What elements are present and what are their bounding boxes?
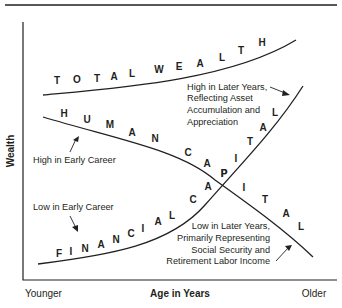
- svg-text:A: A: [282, 208, 289, 219]
- svg-text:T: T: [247, 136, 253, 147]
- svg-text:E: E: [176, 61, 183, 72]
- arrowhead-icon: [72, 225, 78, 232]
- svg-text:I: I: [243, 182, 246, 193]
- arrow-icon: [70, 139, 76, 152]
- svg-text:N: N: [151, 133, 158, 144]
- svg-text:F: F: [56, 248, 62, 259]
- annotation-financial-later: High in Later Years, Reflecting Asset Ac…: [187, 82, 290, 127]
- svg-text:L: L: [219, 52, 225, 63]
- svg-text:H: H: [258, 37, 265, 48]
- annotation-financial-early: Low in Early Career: [33, 202, 114, 232]
- svg-text:A: A: [97, 239, 104, 250]
- arrowhead-icon: [282, 90, 290, 96]
- svg-text:Low in Early Career: Low in Early Career: [33, 202, 114, 212]
- svg-text:T: T: [54, 75, 60, 86]
- svg-text:L: L: [169, 210, 175, 221]
- svg-text:Low in Later Years,: Low in Later Years,: [192, 221, 270, 231]
- svg-text:I: I: [235, 153, 238, 164]
- svg-text:A: A: [196, 58, 203, 69]
- svg-text:High in Early Career: High in Early Career: [33, 155, 116, 165]
- svg-text:T: T: [94, 73, 100, 84]
- svg-text:N: N: [81, 243, 88, 254]
- svg-text:A: A: [110, 71, 117, 82]
- svg-text:O: O: [73, 74, 81, 85]
- svg-text:W: W: [154, 64, 164, 75]
- svg-text:A: A: [204, 181, 211, 192]
- x-axis-label: Age in Years: [150, 288, 210, 299]
- svg-text:P: P: [221, 168, 228, 179]
- x-axis-end-label: Older: [302, 288, 327, 299]
- svg-text:I: I: [70, 246, 73, 257]
- y-axis-label: Wealth: [5, 135, 16, 168]
- total-wealth-label: T O T A L W E A L T H: [54, 37, 266, 86]
- svg-text:L: L: [272, 107, 278, 118]
- arrowhead-icon: [73, 136, 79, 142]
- svg-text:Reflecting Asset: Reflecting Asset: [187, 93, 253, 103]
- svg-text:A: A: [128, 127, 135, 138]
- svg-text:Accumulation and: Accumulation and: [187, 105, 260, 115]
- arrow-icon: [276, 248, 288, 261]
- annotation-human-later: Low in Later Years, Primarily Representi…: [166, 221, 292, 266]
- svg-text:I: I: [142, 223, 145, 234]
- x-axis-start-label: Younger: [25, 288, 63, 299]
- svg-text:H: H: [60, 108, 67, 119]
- svg-text:U: U: [83, 114, 90, 125]
- svg-text:Appreciation: Appreciation: [187, 117, 238, 127]
- svg-text:L: L: [129, 68, 135, 79]
- annotation-human-early: High in Early Career: [33, 136, 116, 165]
- svg-text:M: M: [106, 119, 114, 130]
- svg-text:N: N: [112, 234, 119, 245]
- svg-text:A: A: [259, 122, 266, 133]
- svg-text:T: T: [238, 45, 244, 56]
- svg-text:Retirement Labor Income: Retirement Labor Income: [166, 256, 270, 266]
- svg-text:Social Security and: Social Security and: [191, 245, 270, 255]
- svg-text:C: C: [127, 228, 134, 239]
- svg-text:C: C: [189, 194, 196, 205]
- svg-text:C: C: [184, 147, 191, 158]
- svg-text:L: L: [298, 221, 304, 232]
- svg-text:A: A: [154, 216, 161, 227]
- wealth-diagram: T O T A L W E A L T H H U M A N C A P I …: [0, 0, 342, 308]
- svg-text:Primarily Representing: Primarily Representing: [177, 233, 270, 243]
- svg-text:High in Later Years,: High in Later Years,: [187, 82, 267, 92]
- svg-text:A: A: [203, 158, 210, 169]
- human-capital-label: H U M A N C A P I T A L: [60, 108, 304, 232]
- svg-text:T: T: [262, 194, 268, 205]
